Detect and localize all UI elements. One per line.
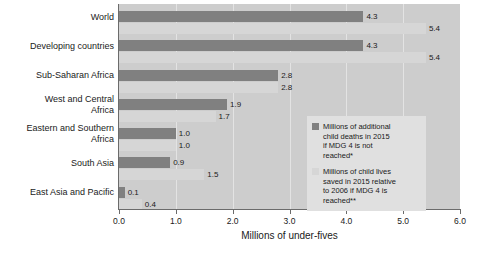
bar-value-label: 0.9 (173, 157, 184, 168)
bar-dark (119, 70, 278, 81)
x-tick (290, 210, 291, 214)
legend-label: Millions of child livessaved in 2015 rel… (323, 167, 396, 205)
category-label: World (2, 12, 114, 23)
x-axis-title: Millions of under-fives (119, 230, 460, 241)
x-tick (460, 210, 461, 214)
legend-entry: Millions of child livessaved in 2015 rel… (312, 167, 421, 205)
chart-legend: Millions of additionalchild deaths in 20… (307, 116, 426, 211)
x-tick (233, 210, 234, 214)
legend-label-line: Millions of child lives (323, 167, 396, 177)
category-label-line: Developing countries (2, 41, 114, 52)
category-label: Developing countries (2, 41, 114, 52)
bar-value-label: 4.3 (366, 11, 377, 22)
category-label: West and CentralAfrica (2, 94, 114, 116)
bar-value-label: 0.1 (128, 187, 139, 198)
chart-figure: 4.35.44.35.42.82.81.91.71.01.00.91.50.10… (0, 0, 480, 254)
bar-value-label: 1.9 (230, 99, 241, 110)
x-tick (119, 210, 120, 214)
y-axis-line (118, 4, 119, 210)
x-tick-label: 1.0 (170, 216, 182, 226)
category-label-line: East Asia and Pacific (2, 187, 114, 198)
bar-value-label: 4.3 (366, 40, 377, 51)
category-label: Eastern and SouthernAfrica (2, 123, 114, 145)
x-tick-label: 5.0 (397, 216, 409, 226)
x-tick-label: 2.0 (227, 216, 239, 226)
legend-swatch-light (312, 168, 319, 175)
bar-dark (119, 99, 227, 110)
bar-dark (119, 157, 170, 168)
category-label-line: World (2, 12, 114, 23)
bar-value-label: 0.4 (145, 199, 156, 209)
legend-label: Millions of additionalchild deaths in 20… (323, 122, 391, 160)
bar-dark (119, 187, 125, 198)
category-label: Sub-Saharan Africa (2, 70, 114, 81)
legend-label-line: to 2006 if MDG 4 is (323, 186, 396, 196)
category-label-line: West and Central (2, 94, 114, 105)
category-label-line: South Asia (2, 158, 114, 169)
x-tick-label: 0.0 (113, 216, 125, 226)
x-tick-label: 6.0 (454, 216, 466, 226)
legend-label-line: child deaths in 2015 (323, 132, 391, 142)
x-tick-label: 3.0 (284, 216, 296, 226)
y-axis-category-labels: WorldDeveloping countriesSub-Saharan Afr… (0, 0, 114, 254)
bar-light (119, 199, 142, 209)
category-label-line: Sub-Saharan Africa (2, 70, 114, 81)
legend-entry: Millions of additionalchild deaths in 20… (312, 122, 421, 160)
category-label-line: Africa (2, 134, 114, 145)
bar-group: 2.82.8 (119, 63, 460, 92)
legend-label-line: reached* (323, 151, 391, 161)
bar-value-label: 1.0 (179, 128, 190, 139)
category-label-line: Eastern and Southern (2, 123, 114, 134)
bar-value-label: 2.8 (281, 70, 292, 81)
bar-group: 4.35.4 (119, 33, 460, 62)
category-label: East Asia and Pacific (2, 187, 114, 198)
x-tick (176, 210, 177, 214)
legend-label-line: Millions of additional (323, 122, 391, 132)
legend-label-line: if MDG 4 is not (323, 141, 391, 151)
bar-dark (119, 11, 363, 22)
category-label: South Asia (2, 158, 114, 169)
legend-label-line: saved in 2015 relative (323, 177, 396, 187)
bar-group: 4.35.4 (119, 4, 460, 33)
bar-dark (119, 40, 363, 51)
legend-swatch-dark (312, 123, 319, 130)
bar-dark (119, 128, 176, 139)
category-label-line: Africa (2, 105, 114, 116)
legend-label-line: reached** (323, 196, 396, 206)
x-tick-label: 4.0 (340, 216, 352, 226)
